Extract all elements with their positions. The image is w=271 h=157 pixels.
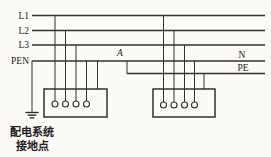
- grounding-point-caption-line1: 配电系统: [10, 125, 54, 139]
- label-PEN: PEN: [11, 56, 29, 66]
- terminal-icon: [63, 101, 69, 107]
- terminal-icon: [52, 101, 58, 107]
- terminal-icon: [192, 102, 198, 108]
- terminal-icon: [161, 102, 167, 108]
- label-L1: L1: [18, 11, 29, 21]
- label-N: N: [239, 50, 246, 60]
- tn-c-s-system-schematic: L1L2L3PENANPE配电系统接地点: [0, 0, 271, 157]
- terminal-icon: [73, 101, 79, 107]
- label-L2: L2: [18, 26, 29, 36]
- terminal-icon: [182, 102, 188, 108]
- label-point-A: A: [116, 48, 123, 58]
- terminal-icon: [84, 101, 90, 107]
- circuit-diagram: L1L2L3PENANPE配电系统接地点: [0, 0, 271, 157]
- label-PE: PE: [237, 63, 248, 73]
- label-L3: L3: [18, 40, 29, 50]
- terminal-icon: [171, 102, 177, 108]
- grounding-point-caption-line2: 接地点: [16, 139, 49, 153]
